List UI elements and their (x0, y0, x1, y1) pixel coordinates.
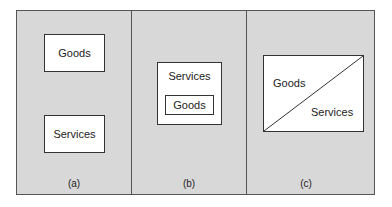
goods-label: Goods (273, 77, 305, 89)
services-label: Services (311, 106, 353, 118)
panel-c-caption: (c) (286, 178, 326, 189)
diagonal-divider-line (17, 11, 376, 196)
diagram-frame: Goods Services (a) Services Goods (b) Go… (16, 10, 375, 195)
